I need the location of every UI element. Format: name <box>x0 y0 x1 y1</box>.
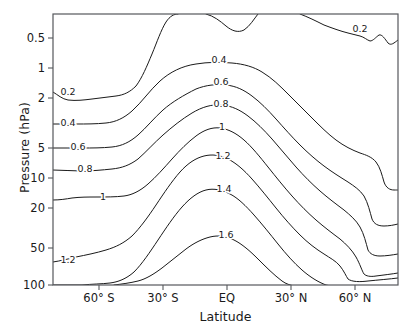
contour-label: 1.2 <box>60 254 75 265</box>
contour-label: 0.2 <box>352 23 367 34</box>
contour-label: 0.6 <box>213 76 228 87</box>
y-tick-label: 1 <box>38 61 45 75</box>
y-tick-label: 10 <box>30 171 45 185</box>
contour-label: 1.2 <box>215 150 230 161</box>
y-tick-label: 0.5 <box>27 31 45 45</box>
x-tick-label: 30° S <box>147 291 178 305</box>
contour-label: 0.6 <box>70 141 85 152</box>
contour-line <box>114 236 294 286</box>
y-tick-label: 100 <box>23 278 45 292</box>
y-tick-label: 50 <box>30 241 45 255</box>
x-tick-label: 60° S <box>83 291 114 305</box>
axis-ticks <box>48 38 355 290</box>
y-tick-label: 5 <box>38 141 45 155</box>
y-axis-title: Pressure (hPa) <box>17 78 32 218</box>
x-axis-title: Latitude <box>53 309 398 324</box>
x-tick-label: 60° N <box>339 291 372 305</box>
contour-label: 0.4 <box>211 54 226 65</box>
contour-plot-figure: 0.5125102050100 60° S30° SEQ30° N60° N 0… <box>0 0 409 334</box>
contour-label: 0.8 <box>213 98 228 109</box>
plot-canvas: 0.5125102050100 60° S30° SEQ30° N60° N 0… <box>0 0 409 334</box>
y-tick-label: 20 <box>30 201 45 215</box>
contour-label: 1.4 <box>216 183 231 194</box>
y-tick-label: 2 <box>38 91 45 105</box>
x-tick-label: 30° N <box>275 291 308 305</box>
x-tick-labels: 60° S30° SEQ30° N60° N <box>83 291 371 305</box>
contour-label: 1 <box>219 121 225 132</box>
x-tick-label: EQ <box>219 291 235 305</box>
contour-label: 1.6 <box>218 229 233 240</box>
contour-label: 0.8 <box>77 163 92 174</box>
contour-label: 0.4 <box>60 117 75 128</box>
contour-label: 0.2 <box>60 86 75 97</box>
contour-line <box>53 189 338 286</box>
contour-line <box>300 14 398 44</box>
contour-line <box>53 155 398 282</box>
contour-line <box>206 14 258 31</box>
contour-value-labels: 0.20.40.60.811.20.40.60.811.21.41.60.20.… <box>60 23 367 265</box>
contour-label: 1 <box>100 191 106 202</box>
